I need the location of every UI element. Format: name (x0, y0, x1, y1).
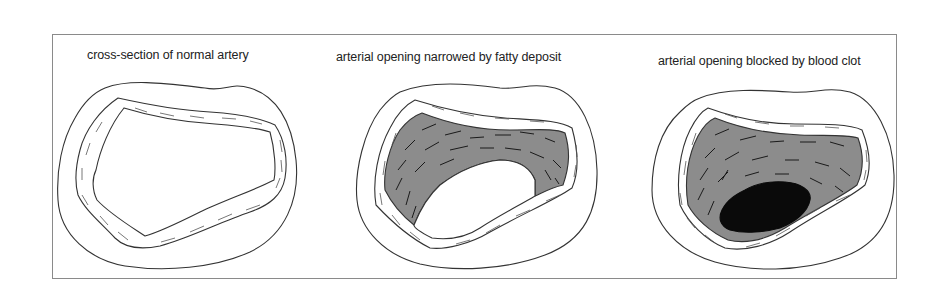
artery-blocked (652, 90, 894, 269)
artery-narrowed (357, 84, 598, 269)
artery-normal (58, 83, 297, 269)
